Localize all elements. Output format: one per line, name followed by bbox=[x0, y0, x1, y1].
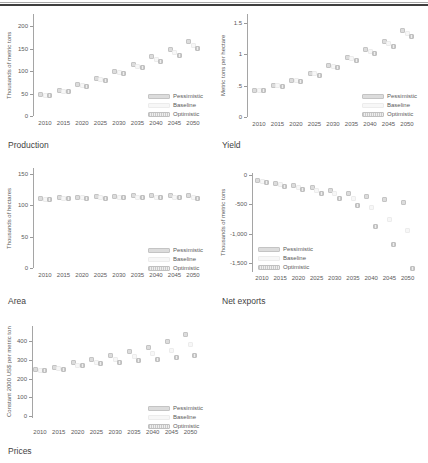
data-marker bbox=[103, 196, 108, 201]
y-tick-label: 150 bbox=[2, 46, 28, 53]
legend-row: Baseline bbox=[148, 256, 203, 262]
data-marker bbox=[66, 89, 71, 94]
legend-label: Baseline bbox=[283, 255, 306, 261]
y-tick-label: 100 bbox=[2, 202, 28, 209]
legend-label: Baseline bbox=[173, 256, 196, 262]
x-tick-label: 2050 bbox=[181, 120, 205, 126]
data-marker bbox=[158, 195, 163, 200]
data-marker bbox=[117, 360, 122, 365]
y-tick bbox=[30, 237, 33, 238]
y-tick bbox=[30, 26, 33, 27]
data-marker bbox=[369, 205, 374, 210]
y-tick-label: 150 bbox=[2, 171, 28, 178]
legend-row: Baseline bbox=[258, 255, 313, 261]
data-marker bbox=[282, 184, 287, 189]
legend-row: Baseline bbox=[148, 102, 203, 108]
y-axis-line bbox=[33, 14, 34, 116]
data-marker bbox=[155, 357, 160, 362]
data-marker bbox=[146, 345, 151, 350]
y-tick bbox=[30, 94, 33, 95]
legend-row: Pessimistic bbox=[148, 405, 203, 411]
legend-row: Pessimistic bbox=[148, 247, 203, 253]
data-marker bbox=[136, 358, 141, 363]
data-marker bbox=[354, 58, 359, 63]
data-marker bbox=[98, 361, 103, 366]
legend-swatch-opt bbox=[258, 265, 280, 270]
data-marker bbox=[410, 266, 415, 271]
data-marker bbox=[66, 196, 71, 201]
y-axis-line bbox=[247, 14, 248, 117]
y-tick-label: -500 bbox=[221, 201, 247, 208]
legend-swatch-pess bbox=[362, 94, 384, 99]
data-marker bbox=[280, 84, 285, 89]
legend-swatch-pess bbox=[148, 94, 170, 99]
legend-swatch-opt bbox=[148, 266, 170, 271]
y-tick-label: 400 bbox=[1, 338, 27, 345]
legend-row: Pessimistic bbox=[148, 93, 203, 99]
y-tick-label: .5 bbox=[216, 83, 242, 90]
y-axis-line bbox=[32, 326, 33, 418]
legend-label: Pessimistic bbox=[283, 246, 313, 252]
legend-swatch-base bbox=[148, 103, 170, 108]
y-tick bbox=[249, 234, 252, 235]
data-marker bbox=[391, 44, 396, 49]
data-marker bbox=[195, 46, 200, 51]
chart-area: Thousands of hectares Area 1501005002010… bbox=[0, 162, 214, 314]
y-tick-label: 0 bbox=[2, 265, 28, 272]
data-marker bbox=[47, 93, 52, 98]
y-tick bbox=[30, 268, 33, 269]
legend-swatch-pess bbox=[258, 247, 280, 252]
x-tick-label: 2050 bbox=[178, 429, 202, 435]
y-tick bbox=[249, 204, 252, 205]
legend-label: Optimistic bbox=[387, 111, 413, 117]
legend-swatch-base bbox=[148, 257, 170, 262]
legend-swatch-opt bbox=[148, 112, 170, 117]
data-marker bbox=[346, 191, 351, 196]
legend-row: Optimistic bbox=[148, 423, 203, 429]
y-tick-label: 200 bbox=[1, 376, 27, 383]
y-tick-label: -1,500 bbox=[221, 260, 247, 267]
y-tick-label: 0 bbox=[221, 172, 247, 179]
y-tick bbox=[29, 341, 32, 342]
data-marker bbox=[355, 203, 360, 208]
data-marker bbox=[387, 217, 392, 222]
legend-swatch-opt bbox=[148, 424, 170, 429]
legend-row: Optimistic bbox=[148, 265, 203, 271]
data-marker bbox=[401, 200, 406, 205]
y-tick bbox=[29, 397, 32, 398]
data-marker bbox=[317, 73, 322, 78]
y-tick-label: 0 bbox=[216, 114, 242, 121]
y-tick-label: -1,000 bbox=[221, 231, 247, 238]
data-marker bbox=[351, 196, 356, 201]
legend-label: Baseline bbox=[173, 102, 196, 108]
data-marker bbox=[335, 65, 340, 70]
data-marker bbox=[188, 342, 193, 347]
y-tick bbox=[29, 360, 32, 361]
legend-label: Pessimistic bbox=[387, 93, 417, 99]
y-axis-line bbox=[252, 173, 253, 272]
y-tick bbox=[30, 174, 33, 175]
legend-swatch-base bbox=[362, 103, 384, 108]
legend-label: Optimistic bbox=[173, 111, 199, 117]
y-tick-label: 200 bbox=[2, 23, 28, 30]
data-marker bbox=[103, 78, 108, 83]
y-tick bbox=[244, 86, 247, 87]
data-marker bbox=[169, 348, 174, 353]
y-tick-label: 1.5 bbox=[216, 20, 242, 27]
legend-row: Pessimistic bbox=[258, 246, 313, 252]
data-marker bbox=[121, 71, 126, 76]
legend-label: Optimistic bbox=[173, 265, 199, 271]
legend-row: Optimistic bbox=[148, 111, 203, 117]
chart-title: Yield bbox=[222, 140, 241, 150]
y-tick-label: 0 bbox=[2, 113, 28, 120]
data-marker bbox=[372, 51, 377, 56]
x-tick-label: 2050 bbox=[395, 121, 419, 127]
y-tick bbox=[30, 116, 33, 117]
legend-label: Pessimistic bbox=[173, 247, 203, 253]
y-tick-label: 100 bbox=[1, 394, 27, 401]
y-tick bbox=[249, 175, 252, 176]
data-marker bbox=[80, 363, 85, 368]
y-axis-label: Thousands of metric tons bbox=[218, 173, 228, 272]
y-tick-label: 50 bbox=[2, 234, 28, 241]
chart-yield: Metric tons per hectare Yield 1.51.50201… bbox=[214, 6, 428, 158]
